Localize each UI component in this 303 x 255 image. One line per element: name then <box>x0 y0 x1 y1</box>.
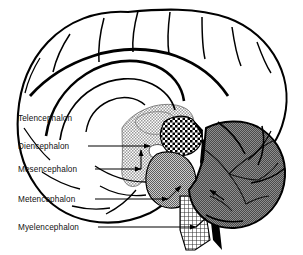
label-telencephalon: Telencephalon <box>18 114 72 123</box>
label-mesencephalon: Mesencephalon <box>18 165 77 174</box>
label-diencephalon: Diencephalon <box>18 142 70 151</box>
brain-diagram-figure: Telencephalon Diencephalon Mesencephalon… <box>0 0 303 255</box>
brain-diagram-svg: Telencephalon Diencephalon Mesencephalon… <box>0 0 303 255</box>
label-myelencephalon: Myelencephalon <box>18 223 79 232</box>
label-metencephalon: Metencephalon <box>18 195 76 204</box>
